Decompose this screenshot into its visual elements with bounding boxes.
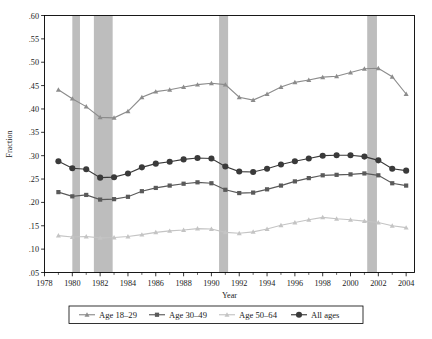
legend-label: All ages: [311, 310, 340, 320]
data-point: [264, 166, 270, 172]
recession-band: [72, 16, 80, 273]
data-point: [83, 166, 89, 172]
data-point: [279, 183, 283, 187]
data-point: [208, 155, 214, 161]
data-point: [362, 171, 366, 175]
legend-label: Age 30–49: [169, 310, 207, 320]
data-point: [111, 174, 117, 180]
y-tick-label: .25: [29, 175, 39, 184]
y-tick-label: .30: [29, 152, 39, 161]
legend-marker: [155, 313, 159, 317]
y-tick-label: .15: [29, 222, 39, 231]
data-point: [125, 170, 131, 176]
y-tick-label: .55: [29, 35, 39, 44]
data-point: [376, 173, 380, 177]
x-tick-label: 1986: [148, 279, 164, 288]
y-axis-tick-labels: .05.10.15.20.25.30.35.40.45.50.55.60: [29, 12, 39, 278]
x-tick-label: 1978: [36, 279, 52, 288]
x-tick-label: 1984: [120, 279, 136, 288]
data-point: [195, 180, 199, 184]
data-point: [292, 158, 298, 164]
y-tick-label: .10: [29, 245, 39, 254]
data-point: [390, 181, 394, 185]
data-point: [361, 154, 367, 160]
x-tick-label: 1982: [92, 279, 108, 288]
x-tick-label: 2004: [398, 279, 414, 288]
data-point: [209, 181, 213, 185]
y-tick-label: .40: [29, 105, 39, 114]
data-point: [265, 187, 269, 191]
x-tick-label: 1992: [231, 279, 247, 288]
data-point: [181, 156, 187, 162]
data-point: [223, 188, 227, 192]
data-point: [236, 169, 242, 175]
data-point: [237, 191, 241, 195]
data-point: [250, 169, 256, 175]
line-chart: .05.10.15.20.25.30.35.40.45.50.55.60 197…: [0, 0, 432, 339]
data-point: [403, 168, 409, 174]
y-tick-label: .45: [29, 82, 39, 91]
y-tick-label: .60: [29, 12, 39, 21]
data-point: [293, 179, 297, 183]
x-axis-tick-labels: 1978198019821984198619881990199219941996…: [36, 279, 414, 288]
y-tick-label: .05: [29, 269, 39, 278]
data-point: [98, 198, 102, 202]
data-point: [69, 165, 75, 171]
y-tick-label: .50: [29, 58, 39, 67]
x-tick-label: 2002: [370, 279, 386, 288]
data-point: [390, 74, 395, 78]
x-tick-label: 1994: [259, 279, 275, 288]
data-point: [140, 189, 144, 193]
data-point: [84, 104, 89, 108]
data-point: [154, 186, 158, 190]
data-point: [167, 159, 173, 165]
recession-band: [94, 16, 113, 273]
data-point: [97, 175, 103, 181]
data-point: [56, 87, 61, 91]
data-point: [404, 183, 408, 187]
data-point: [194, 155, 200, 161]
legend-label: Age 50–64: [239, 310, 278, 320]
data-point: [84, 193, 88, 197]
data-point: [55, 158, 61, 164]
data-point: [153, 161, 159, 167]
data-point: [321, 173, 325, 177]
data-point: [375, 157, 381, 163]
chart-legend: Age 18–29Age 30–49Age 50–64All ages: [69, 306, 363, 324]
data-point: [112, 197, 116, 201]
x-tick-label: 1996: [287, 279, 303, 288]
data-point: [278, 162, 284, 168]
data-point: [335, 173, 339, 177]
data-point: [56, 190, 60, 194]
x-tick-label: 1990: [203, 279, 219, 288]
x-tick-label: 1988: [175, 279, 191, 288]
data-point: [126, 195, 130, 199]
legend-label: Age 18–29: [99, 310, 137, 320]
recession-band: [367, 16, 377, 273]
data-point: [389, 166, 395, 172]
y-axis-title: Fraction: [5, 130, 14, 157]
legend-marker: [296, 312, 302, 318]
axis-titles: YearFraction: [5, 130, 237, 300]
x-tick-label: 1980: [64, 279, 80, 288]
x-tick-label: 1998: [315, 279, 331, 288]
data-point: [348, 172, 352, 176]
data-point: [320, 153, 326, 159]
data-point: [251, 190, 255, 194]
data-point: [139, 164, 145, 170]
data-point: [222, 163, 228, 169]
x-tick-label: 2000: [342, 279, 358, 288]
y-tick-label: .20: [29, 198, 39, 207]
data-point: [168, 183, 172, 187]
y-tick-label: .35: [29, 128, 39, 137]
data-point: [307, 176, 311, 180]
data-point: [347, 152, 353, 158]
x-axis-title: Year: [222, 291, 237, 300]
data-point: [334, 152, 340, 158]
chart-figure: .05.10.15.20.25.30.35.40.45.50.55.60 197…: [0, 0, 432, 339]
data-point: [70, 194, 74, 198]
data-point: [181, 182, 185, 186]
data-point: [306, 155, 312, 161]
